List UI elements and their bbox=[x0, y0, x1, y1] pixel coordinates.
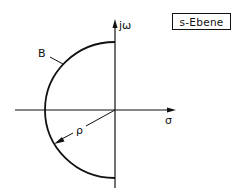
contour-b-label: B bbox=[38, 48, 46, 59]
radius-label: ρ bbox=[76, 125, 83, 136]
contour-b-leader bbox=[50, 57, 63, 64]
imag-axis-label: jω bbox=[119, 20, 131, 31]
radius-line bbox=[86, 110, 115, 126]
real-axis-label: σ bbox=[165, 115, 172, 126]
s-plane-title-box: s-Ebene bbox=[172, 13, 231, 30]
imag-axis-arrow-icon bbox=[113, 19, 118, 28]
real-axis-arrow-icon bbox=[167, 108, 176, 113]
